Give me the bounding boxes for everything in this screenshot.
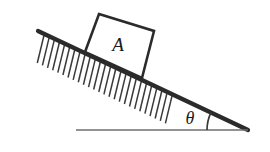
block-label: A <box>110 34 124 55</box>
physics-diagram-canvas: A θ <box>0 0 270 152</box>
angle-label: θ <box>186 108 195 128</box>
inclined-plane-figure: A θ <box>0 0 270 152</box>
